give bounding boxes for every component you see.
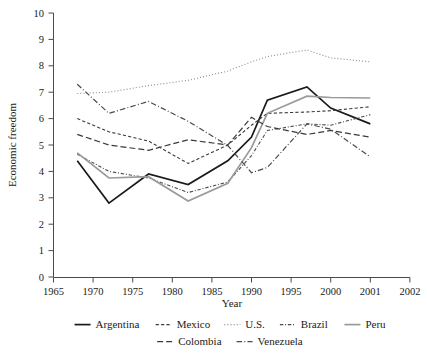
y-tick-label: 4 xyxy=(39,166,45,177)
series-line-brazil xyxy=(77,115,370,193)
y-axis-title: Economic freedom xyxy=(6,103,18,187)
x-tick-label: 1980 xyxy=(162,286,183,297)
y-tick-label: 1 xyxy=(39,245,44,256)
y-tick-label: 5 xyxy=(39,140,44,151)
x-tick-label: 2001 xyxy=(360,286,381,297)
x-tick-label: 1970 xyxy=(83,286,104,297)
legend-label-peru: Peru xyxy=(365,318,386,330)
legend-label-brazil: Brazil xyxy=(301,318,328,330)
chart-legend: ArgentinaMexicoU.S.BrazilPeruColombiaVen… xyxy=(75,318,387,347)
legend-label-mexico: Mexico xyxy=(177,318,211,330)
y-tick-label: 7 xyxy=(39,87,44,98)
x-axis-title: Year xyxy=(222,297,243,309)
series-line-peru xyxy=(77,96,370,201)
x-axis-tick-labels: 1965197019751980198519901995200020012002 xyxy=(43,286,420,297)
y-tick-label: 3 xyxy=(39,192,44,203)
legend-label-colombia: Colombia xyxy=(178,335,222,347)
x-axis: 1965197019751980198519901995200020012002… xyxy=(43,278,420,310)
y-tick-label: 9 xyxy=(39,34,44,45)
economic-freedom-line-chart: 012345678910 Economic freedom 1965197019… xyxy=(0,0,427,357)
x-tick-label: 1985 xyxy=(201,286,222,297)
legend-label-argentina: Argentina xyxy=(96,318,140,330)
y-tick-label: 6 xyxy=(39,113,44,124)
series-line-mexico xyxy=(77,107,370,164)
y-axis-ticks xyxy=(49,13,54,277)
y-axis-tick-labels: 012345678910 xyxy=(34,8,45,283)
x-tick-label: 2002 xyxy=(399,286,420,297)
x-tick-label: 1990 xyxy=(241,286,262,297)
x-tick-label: 1995 xyxy=(281,286,302,297)
legend-label-venezuela: Venezuela xyxy=(258,335,303,347)
y-tick-label: 2 xyxy=(39,219,44,230)
data-series-group xyxy=(77,50,370,203)
x-tick-label: 1965 xyxy=(43,286,64,297)
chart-svg: 012345678910 Economic freedom 1965197019… xyxy=(0,0,427,357)
x-tick-label: 2000 xyxy=(320,286,341,297)
y-tick-label: 10 xyxy=(34,8,45,19)
series-line-us xyxy=(77,50,370,94)
legend-label-us: U.S. xyxy=(245,318,265,330)
x-tick-label: 1975 xyxy=(122,286,143,297)
y-tick-label: 8 xyxy=(39,60,44,71)
y-tick-label: 0 xyxy=(39,272,44,283)
y-axis: 012345678910 Economic freedom xyxy=(6,8,54,283)
x-axis-ticks xyxy=(54,278,410,283)
series-line-colombia xyxy=(77,117,370,150)
